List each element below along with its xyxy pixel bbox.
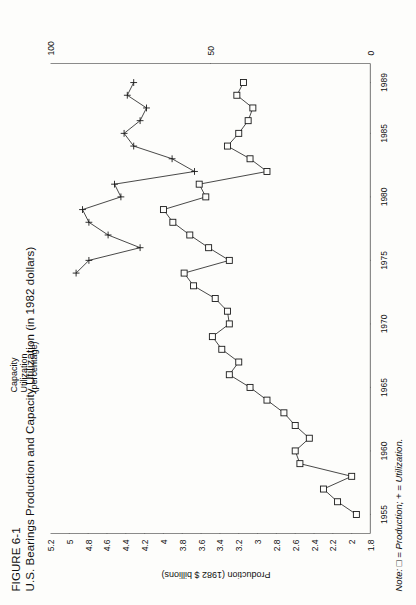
secondary-axis-title-line: Capacity: [8, 341, 18, 392]
figure-note: Note: □ = Production; + = Utilization.: [392, 438, 403, 591]
note-text: Note: □ = Production; + = Utilization.: [392, 438, 403, 591]
x-axis-tick-label: 1989: [378, 73, 388, 92]
figure-number: FIGURE 6-1: [8, 246, 22, 591]
secondary-y-axis-tick-label: 50: [205, 46, 215, 55]
y-axis-tick-label: 5: [64, 539, 74, 567]
figure-title: U.S. Bearings Production and Capacity Ut…: [22, 246, 36, 591]
secondary-y-axis-tick-label: 100: [45, 41, 55, 55]
y-axis-tick-label: 3.4: [214, 539, 224, 567]
y-axis-title: Production (1982 $ billions): [161, 569, 270, 579]
series-production: [160, 79, 359, 517]
figure-page: FIGURE 6-1 U.S. Bearings Production and …: [0, 0, 416, 605]
x-axis-tick-label: 1985: [378, 123, 388, 142]
y-axis-tick-label: 3.2: [233, 539, 243, 567]
y-axis-tick-label: 3.8: [177, 539, 187, 567]
y-axis-tick-label: 4.6: [101, 539, 111, 567]
y-axis-tick-label: 3.6: [196, 539, 206, 567]
series-utilization: [72, 79, 197, 276]
y-axis-tick-label: 3: [252, 539, 262, 567]
secondary-y-axis-tick-label: 0: [365, 50, 375, 55]
y-axis-tick-label: 2.6: [290, 539, 300, 567]
figure-heading: FIGURE 6-1 U.S. Bearings Production and …: [8, 246, 37, 591]
y-axis-tick-label: 2.4: [309, 539, 319, 567]
secondary-axis-title-line: (percentage): [28, 341, 38, 392]
chart-plot-area: 1.822.22.42.62.833.23.43.63.844.24.44.64…: [50, 63, 370, 533]
chart-svg: [50, 63, 370, 533]
scanned-page: FIGURE 6-1 U.S. Bearings Production and …: [0, 0, 416, 605]
x-axis-tick-label: 1965: [378, 377, 388, 396]
y-axis-tick-label: 1.8: [365, 539, 375, 567]
secondary-y-axis-title: CapacityUtilization(percentage): [8, 341, 38, 392]
y-axis-tick-label: 4: [158, 539, 168, 567]
y-axis-tick-label: 4.8: [83, 539, 93, 567]
x-axis-tick-label: 1955: [378, 504, 388, 523]
y-axis-tick-label: 4.2: [139, 539, 149, 567]
x-axis-tick-label: 1970: [378, 314, 388, 333]
secondary-axis-title-line: Utilization: [18, 341, 28, 392]
y-axis-tick-label: 2.8: [271, 539, 281, 567]
y-axis-tick-label: 5.2: [45, 539, 55, 567]
x-axis-tick-label: 1960: [378, 441, 388, 460]
y-axis-tick-label: 2: [346, 539, 356, 567]
y-axis-tick-label: 4.4: [120, 539, 130, 567]
x-axis-tick-label: 1975: [378, 250, 388, 269]
x-axis-tick-label: 1980: [378, 187, 388, 206]
y-axis-tick-label: 2.2: [327, 539, 337, 567]
